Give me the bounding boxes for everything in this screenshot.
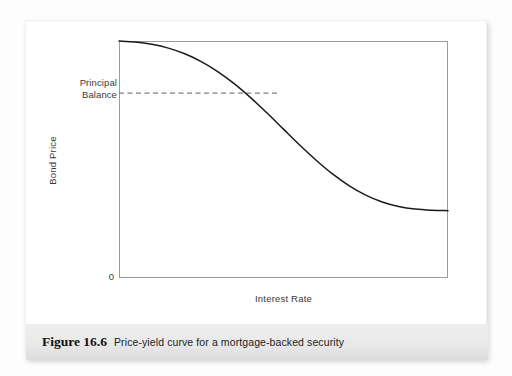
principal-balance-line-2: Balance xyxy=(34,89,117,101)
principal-balance-line-1: Principal xyxy=(34,77,117,89)
chart-region: Bond Price Interest Rate 0 Principal Bal… xyxy=(26,21,488,324)
figure-caption-number: Figure 16.6 xyxy=(42,334,107,350)
principal-balance-annotation: Principal Balance xyxy=(34,77,117,100)
figure-card: Bond Price Interest Rate 0 Principal Bal… xyxy=(25,20,487,359)
origin-tick-label: 0 xyxy=(98,271,114,282)
figure-caption-text: Price-yield curve for a mortgage-backed … xyxy=(114,336,344,348)
x-axis-label: Interest Rate xyxy=(119,293,448,304)
y-axis-label: Bond Price xyxy=(47,116,58,206)
price-yield-curve-line xyxy=(119,41,448,211)
price-yield-curve-plot xyxy=(119,41,448,278)
figure-caption-bar: Figure 16.6 Price-yield curve for a mort… xyxy=(26,324,488,360)
